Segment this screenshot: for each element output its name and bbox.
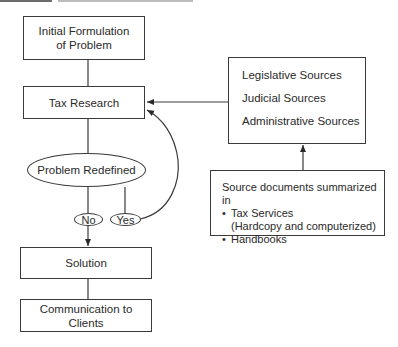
yes-text: Yes — [117, 214, 135, 226]
administrative-sources: Administrative Sources — [242, 114, 360, 128]
sources-list: Legislative Sources Judicial Sources Adm… — [229, 58, 360, 137]
bullet-tax-services: • Tax Services — [222, 207, 384, 220]
sources-box: Legislative Sources Judicial Sources Adm… — [228, 57, 366, 144]
arrow-yes-loop-to-research — [140, 110, 178, 219]
tax-research-box: Tax Research — [23, 86, 145, 119]
source-documents-heading: Source documents summarized in — [222, 181, 384, 207]
solution-box: Solution — [20, 247, 152, 279]
bullet-icon: • — [222, 233, 231, 246]
no-text: No — [81, 214, 95, 226]
solution-label: Solution — [65, 256, 107, 270]
tax-services-continuation: (Hardcopy and computerized) — [222, 220, 384, 233]
yes-branch-label: Yes — [110, 213, 141, 226]
legislative-sources: Legislative Sources — [242, 68, 360, 82]
judicial-sources: Judicial Sources — [242, 91, 360, 105]
bullet-handbooks: • Handbooks — [222, 233, 384, 246]
tax-services-text: Tax Services — [231, 207, 293, 220]
initial-formulation-label: Initial Formulation of Problem — [34, 24, 134, 52]
problem-redefined-label: Problem Redefined — [37, 164, 135, 176]
communication-box: Communication to Clients — [20, 299, 152, 332]
source-documents-box: Source documents summarized in • Tax Ser… — [210, 170, 385, 236]
problem-redefined-decision: Problem Redefined — [27, 153, 146, 187]
initial-formulation-box: Initial Formulation of Problem — [23, 16, 145, 60]
communication-label: Communication to Clients — [21, 302, 151, 330]
no-branch-label: No — [74, 213, 103, 226]
bullet-icon: • — [222, 207, 231, 220]
handbooks-text: Handbooks — [231, 233, 287, 246]
tax-research-label: Tax Research — [49, 96, 119, 110]
source-documents-content: Source documents summarized in • Tax Ser… — [211, 171, 384, 246]
